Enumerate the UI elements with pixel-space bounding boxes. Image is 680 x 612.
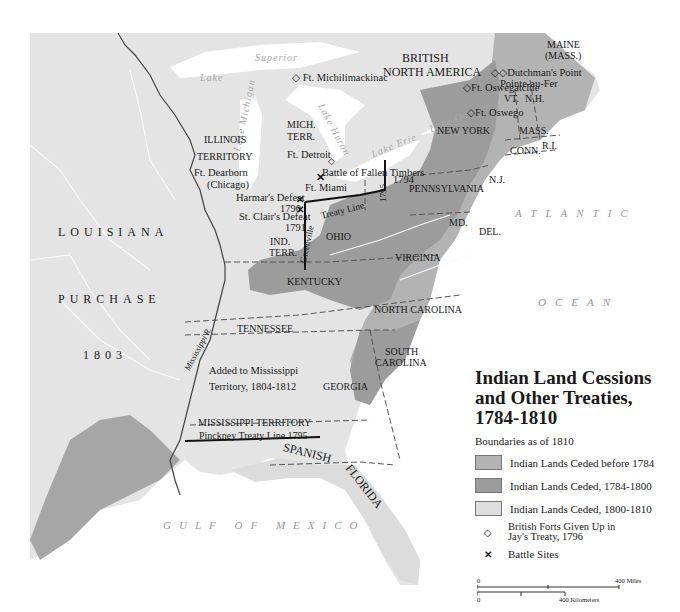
label-vt: VT.: [504, 94, 519, 104]
battle-icon: ✕: [475, 549, 500, 560]
label-1803: 1803: [83, 349, 127, 361]
fort-icon: ◇: [292, 72, 303, 83]
fort-icon: ◇: [475, 527, 500, 538]
label-british-1: BRITISH: [402, 52, 449, 64]
legend-swatch: [475, 455, 502, 470]
label-st-clair-year: 1791: [285, 223, 306, 234]
label-del: DEL.: [479, 227, 501, 237]
label-virginia: VIRGINIA: [395, 253, 441, 263]
legend-item-1800-1810: Indian Lands Ceded, 1800-1810: [475, 501, 675, 516]
label-lake: Lake: [200, 73, 223, 83]
label-new-york: NEW YORK: [437, 126, 490, 136]
fort-pointe-au-fer: Pointe-au-Fer: [500, 79, 558, 90]
label-miss-added-2: Territory, 1804-1812: [209, 382, 296, 393]
label-mich-2: TERR.: [287, 132, 315, 142]
fort-oswego: ◇Ft. Oswego: [467, 108, 524, 119]
label-harmar: Harmar's Defeat: [236, 193, 305, 204]
legend-item-1784-1800: Indian Lands Ceded, 1784-1800: [475, 478, 675, 493]
fort-icon: ◇: [463, 82, 471, 93]
label-ocean: OCEAN: [538, 297, 619, 308]
fort-dearborn-chicago: (Chicago): [207, 180, 249, 191]
scale-bar: 0 400 Miles 0 400 Kilometers: [477, 578, 667, 606]
legend-subtitle: Boundaries as of 1810: [475, 435, 675, 447]
fort-michilimackinac: ◇ Ft. Michilimackinac: [292, 73, 388, 84]
label-miss-added-1: Added to Mississippi: [209, 366, 298, 377]
label-illinois-2: TERRITORY: [197, 152, 252, 162]
label-maine-mass: (MASS.): [545, 51, 581, 61]
label-south-carolina-1: SOUTH: [385, 347, 418, 357]
fort-detroit-icon: ◇: [328, 157, 335, 166]
label-fallen-timbers-year: 1794: [393, 175, 414, 186]
label-maine: MAINE: [547, 40, 580, 50]
label-miss-terr: MISSISSIPPI TERRITORY: [198, 418, 311, 428]
legend: Indian Land Cessions and Other Treaties,…: [475, 368, 675, 560]
fort-detroit: Ft. Detroit: [287, 150, 331, 161]
label-north-carolina: NORTH CAROLINA: [374, 305, 462, 315]
label-tennessee: TENNESSEE: [237, 324, 293, 334]
label-georgia: GEORGIA: [323, 382, 368, 392]
legend-swatch: [475, 501, 502, 516]
label-illinois-1: ILLINOIS: [204, 135, 246, 145]
legend-item-before-1784: Indian Lands Ceded before 1784: [475, 455, 675, 470]
fort-icon: ◇◇: [491, 67, 507, 78]
label-nj: N.J.: [489, 175, 505, 185]
label-purchase: PURCHASE: [58, 293, 161, 305]
label-superior: Superior: [255, 53, 298, 63]
label-gulf-of-mexico: GULF OF MEXICO: [163, 520, 365, 531]
legend-item-forts: ◇ British Forts Given Up in Jay's Treaty…: [475, 522, 675, 542]
scale-lines: [477, 585, 627, 597]
label-british-2: NORTH AMERICA: [383, 66, 481, 78]
label-1795: 1795: [379, 184, 388, 202]
label-conn: CONN.: [510, 146, 541, 156]
label-pennsylvania: PENNSYLVANIA: [409, 184, 484, 194]
label-south-carolina-2: CAROLINA: [375, 358, 427, 368]
fort-dearborn: Ft. Dearborn: [194, 168, 248, 179]
label-kentucky: KENTUCKY: [287, 277, 342, 287]
fort-dutchmans-point: ◇◇Dutchman's Point: [491, 68, 582, 79]
fort-icon: ◇: [467, 107, 475, 118]
label-ind-terr-1: IND.: [270, 237, 290, 247]
label-ohio: OHIO: [326, 232, 351, 242]
fort-miami: Ft. Miami: [305, 183, 347, 194]
label-atlantic: ATLANTIC: [515, 208, 637, 219]
label-mich-1: MICH.: [287, 120, 316, 130]
legend-swatch: [475, 478, 502, 493]
legend-item-battles: ✕ Battle Sites: [475, 548, 675, 560]
label-st-clair: St. Clair's Defeat: [239, 212, 311, 223]
label-mass: MASS.: [519, 126, 549, 136]
label-pinckney: Pinckney Treaty Line 1795: [199, 431, 308, 441]
legend-title: Indian Land Cessions and Other Treaties,…: [475, 368, 675, 428]
label-nh: N.H.: [525, 94, 544, 104]
label-md: MD.: [449, 218, 468, 228]
label-ri: R.I.: [542, 141, 557, 151]
label-louisiana: LOUISIANA: [58, 226, 168, 238]
label-ind-terr-2: TERR.: [269, 248, 297, 258]
